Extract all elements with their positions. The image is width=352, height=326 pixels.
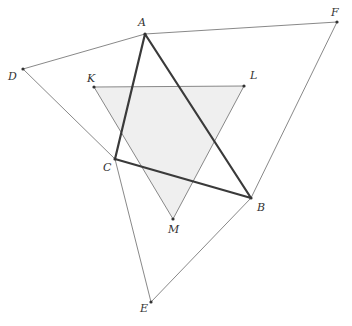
segment-fb [251, 22, 337, 198]
segment-af [145, 22, 337, 34]
label-a: A [137, 16, 146, 29]
label-l: L [249, 69, 257, 82]
point-a-icon [143, 32, 146, 35]
point-c-icon [113, 157, 116, 160]
label-c: C [103, 161, 112, 174]
point-e-icon [149, 300, 152, 303]
label-d: D [7, 70, 17, 83]
point-d-icon [21, 67, 24, 70]
point-k-icon [92, 85, 95, 88]
label-f: F [330, 6, 339, 19]
diagram-svg: ABCDEFKLM [0, 0, 352, 326]
label-e: E [139, 302, 148, 315]
segment-da [23, 34, 145, 69]
label-k: K [86, 72, 96, 85]
point-f-icon [335, 20, 338, 23]
point-b-icon [249, 196, 252, 199]
label-m: M [167, 223, 180, 236]
segment-ce [115, 159, 151, 302]
geometry-diagram: ABCDEFKLM [0, 0, 352, 326]
label-b: B [256, 201, 265, 214]
segment-eb [151, 198, 251, 302]
point-l-icon [242, 84, 245, 87]
point-m-icon [171, 217, 174, 220]
segment-dc [23, 69, 115, 159]
